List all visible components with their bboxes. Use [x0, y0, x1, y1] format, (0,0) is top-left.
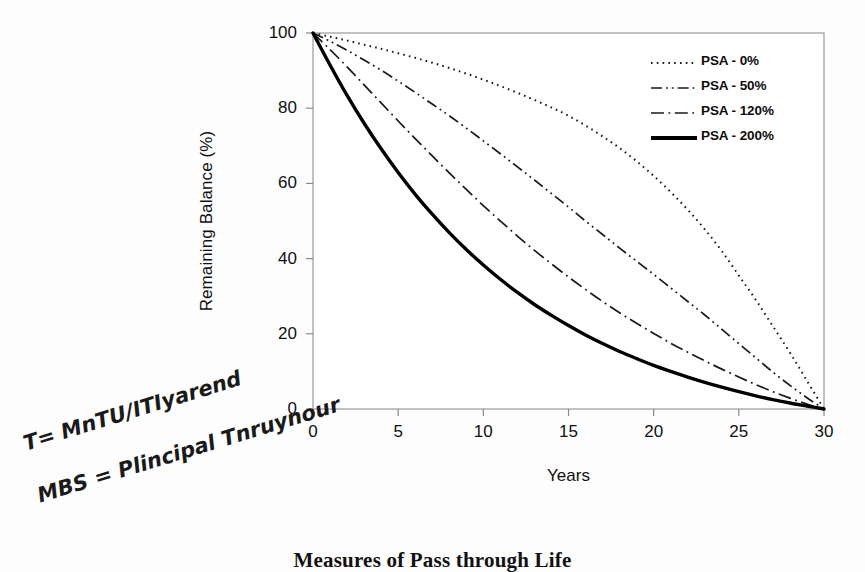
y-tick-label: 100 — [251, 24, 297, 42]
page-canvas: 020406080100 051015202530 Remaining Bala… — [0, 0, 865, 572]
y-tick-label: 60 — [251, 174, 297, 192]
legend-line-sample-icon — [650, 105, 698, 117]
legend-label: PSA - 0% — [701, 53, 759, 68]
y-tick-label: 40 — [251, 250, 297, 268]
legend-item[interactable]: PSA - 200% — [650, 123, 820, 148]
x-tick-label: 5 — [373, 423, 423, 441]
legend-label: PSA - 120% — [701, 103, 774, 118]
legend-label: PSA - 50% — [701, 78, 766, 93]
legend-line-sample-icon — [650, 80, 698, 92]
x-tick-label: 0 — [288, 423, 338, 441]
y-axis-title: Remaining Balance (%) — [196, 33, 218, 409]
x-tick-label: 30 — [799, 423, 849, 441]
legend-item[interactable]: PSA - 50% — [650, 73, 820, 98]
y-tick-label: 0 — [251, 400, 297, 418]
y-tick-label: 20 — [251, 325, 297, 343]
legend-item[interactable]: PSA - 120% — [650, 98, 820, 123]
figure-caption: Measures of Pass through Life — [0, 548, 865, 572]
x-tick-label: 15 — [544, 423, 594, 441]
x-axis-title: Years — [313, 466, 824, 486]
legend-item[interactable]: PSA - 0% — [650, 48, 820, 73]
legend-label: PSA - 200% — [701, 128, 774, 143]
y-tick-label: 80 — [251, 99, 297, 117]
x-tick-label: 25 — [714, 423, 764, 441]
x-tick-label: 20 — [629, 423, 679, 441]
chart-figure: 020406080100 051015202530 Remaining Bala… — [0, 0, 865, 512]
x-tick-label: 10 — [458, 423, 508, 441]
legend-line-sample-icon — [650, 130, 698, 142]
legend-line-sample-icon — [650, 55, 698, 67]
chart-legend: PSA - 0%PSA - 50%PSA - 120%PSA - 200% — [650, 48, 820, 148]
